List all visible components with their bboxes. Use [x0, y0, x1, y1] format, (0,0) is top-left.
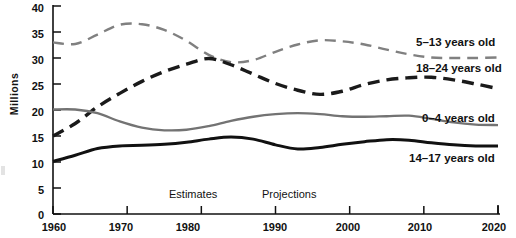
y-tick-label-0: 0 — [22, 209, 44, 221]
y-tick-label-35: 35 — [22, 28, 44, 40]
x-tick-label-2020: 2020 — [474, 221, 514, 233]
x-tick-label-1960: 1960 — [34, 221, 74, 233]
x-tick-label-1970: 1970 — [101, 221, 141, 233]
y-tick-label-5: 5 — [22, 184, 44, 196]
y-tick-label-20: 20 — [22, 106, 44, 118]
x-tick-label-1990: 1990 — [255, 221, 295, 233]
y-axis-title: Millions — [8, 59, 20, 129]
series-label-0-4: 0–4 years old — [422, 112, 495, 124]
population-age-group-chart: Millions 40 35 30 25 20 15 10 5 0 1960 1… — [0, 0, 516, 238]
series-label-14-17: 14–17 years old — [409, 152, 495, 164]
y-tick-label-40: 40 — [22, 2, 44, 14]
series-label-18-24: 18–24 years old — [416, 62, 502, 74]
x-tick-label-2000: 2000 — [328, 221, 368, 233]
x-tick-label-1980: 1980 — [168, 221, 208, 233]
y-tick-label-25: 25 — [22, 80, 44, 92]
scan-artifact-mark — [1, 166, 5, 175]
series-label-5-13: 5–13 years old — [416, 36, 495, 48]
annotation-projections: Projections — [262, 188, 316, 200]
x-tick-label-2010: 2010 — [400, 221, 440, 233]
y-tick-label-10: 10 — [22, 158, 44, 170]
y-tick-label-15: 15 — [22, 132, 44, 144]
annotation-estimates: Estimates — [169, 188, 217, 200]
y-tick-label-30: 30 — [22, 54, 44, 66]
